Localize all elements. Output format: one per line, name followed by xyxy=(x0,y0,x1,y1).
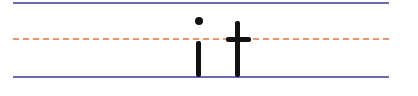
top-guide-line xyxy=(13,2,389,4)
bottom-guide-line xyxy=(13,76,389,78)
dashed-midline xyxy=(13,38,389,40)
letter-t-crossbar xyxy=(226,37,251,42)
letter-i-dot xyxy=(195,17,203,25)
letter-i-stem xyxy=(196,41,201,77)
letter-t-stem xyxy=(235,21,240,77)
